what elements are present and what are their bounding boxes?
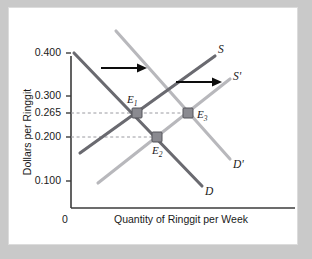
equilibrium-marker-e2 [152, 132, 162, 142]
curve-supply-shifted [98, 79, 230, 183]
equilibrium-label-e2-sub: 2 [159, 150, 163, 159]
demand-shift-arrow [101, 64, 147, 73]
y-tick-label-0100: 0.100 [35, 174, 61, 186]
equilibrium-label-e3: E3 [196, 108, 208, 123]
y-axis-tick-labels: 0.400 0.300 0.265 0.200 0.100 [35, 46, 61, 186]
equilibrium-label-e1-sub: 1 [134, 99, 138, 108]
equilibrium-label-e1: E1 [126, 93, 137, 108]
y-tick-label-0265: 0.265 [35, 106, 61, 118]
equilibrium-label-e3-sub: 3 [203, 114, 208, 123]
equilibrium-marker-e1 [132, 108, 142, 118]
curve-label-supply-shifted: S' [233, 70, 242, 82]
y-tick-label-0200: 0.200 [35, 130, 61, 142]
chart-figure: 0.400 0.300 0.265 0.200 0.100 S [8, 7, 298, 245]
curve-label-demand: D [204, 185, 214, 197]
equilibrium-label-e2: E2 [151, 144, 163, 159]
curve-supply-original [80, 56, 215, 153]
curves [74, 31, 230, 186]
curve-label-demand-shifted: D' [232, 158, 244, 170]
origin-label: 0 [62, 213, 68, 225]
equilibrium-marker-e3 [183, 108, 193, 118]
x-axis-title: Quantity of Ringgit per Week [114, 213, 249, 225]
curve-demand-original [74, 53, 202, 186]
y-axis-title: Dollars per Ringgit [21, 89, 33, 175]
y-tick-label-0300: 0.300 [35, 89, 61, 101]
curve-label-supply: S [218, 43, 224, 55]
supply-demand-plot: 0.400 0.300 0.265 0.200 0.100 S [9, 8, 299, 246]
y-tick-label-0400: 0.400 [35, 46, 61, 58]
curve-labels: S S' D' D [204, 43, 244, 197]
